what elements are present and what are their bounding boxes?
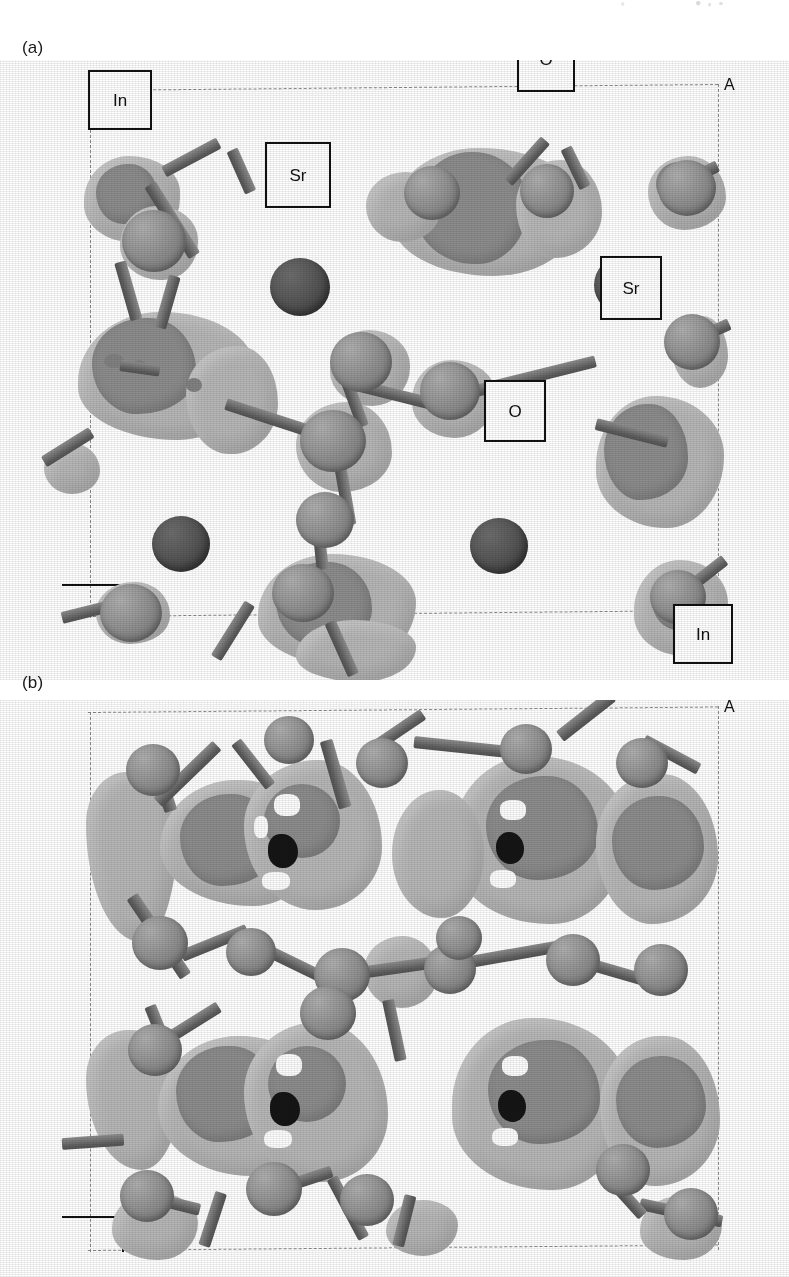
cell-edge-right [718, 706, 719, 1250]
atom-framework [300, 986, 356, 1040]
axis-letter-b: A [724, 700, 735, 716]
scan-artifact-top [600, 0, 789, 8]
atom-framework [120, 1170, 174, 1222]
element-label-sr-left: Sr [265, 142, 331, 208]
panel-b: A [0, 700, 789, 1277]
cell-edge-top [88, 84, 718, 91]
atom-framework [340, 1174, 394, 1226]
atom-framework [664, 1188, 718, 1240]
element-label-sr-right: Sr [600, 256, 662, 320]
atom-framework [226, 928, 276, 976]
atom-framework [246, 1162, 302, 1216]
atom-framework [126, 744, 180, 796]
axis-letter-a: A [724, 76, 735, 94]
atom-sr [470, 518, 528, 574]
atom-framework [296, 492, 354, 548]
figure-canvas: (a) A [0, 0, 789, 1277]
atom-sr [270, 258, 330, 316]
panel-a-letter: (a) [22, 38, 43, 58]
atom-framework [132, 916, 188, 970]
atom-framework [664, 314, 720, 370]
atom-framework [100, 584, 162, 642]
atom-framework [264, 716, 314, 764]
atom-framework [596, 1144, 650, 1196]
atom-framework [436, 916, 482, 960]
atom-framework [404, 166, 460, 220]
atom-framework [122, 210, 186, 272]
cell-edge-top [88, 707, 718, 713]
atom-framework [128, 1024, 182, 1076]
element-label-in-topleft: In [88, 70, 152, 130]
atom-framework [272, 564, 334, 622]
panel-a: A [0, 60, 789, 680]
element-label-in-bottomright: In [673, 604, 733, 664]
element-label-o-center: O [484, 380, 546, 442]
element-label-o-top: O [517, 60, 575, 92]
atom-framework [546, 934, 600, 986]
panel-b-letter: (b) [22, 673, 43, 693]
atom-framework [658, 160, 716, 216]
atom-framework [520, 164, 574, 218]
atom-framework [420, 362, 480, 420]
atom-framework [330, 332, 392, 392]
atom-framework [500, 724, 552, 774]
atom-framework [300, 410, 366, 472]
atom-sr [152, 516, 210, 572]
atom-framework [634, 944, 688, 996]
atom-framework [356, 738, 408, 788]
atom-framework [616, 738, 668, 788]
cell-edge-left [90, 712, 91, 1252]
